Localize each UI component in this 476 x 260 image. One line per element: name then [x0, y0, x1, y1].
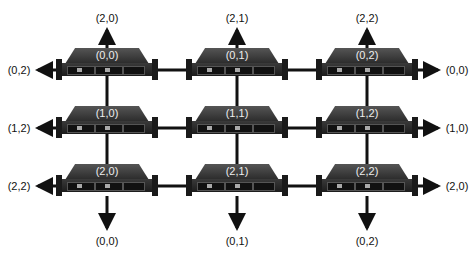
torus-diagram: (2,0)(2,1)(2,2)(0,0)(0,1)(0,2)(0,2)(1,2)… [0, 0, 476, 260]
wrap-label-right: (0,0) [446, 64, 469, 76]
drive-bay-icon [383, 124, 405, 133]
server-node: (2,1) [189, 164, 285, 194]
rack-ear-icon [412, 175, 418, 196]
drive-bay-icon [123, 124, 145, 133]
server-label: (1,0) [59, 107, 155, 119]
rack-ear-icon [316, 59, 322, 80]
server-label: (1,1) [189, 107, 285, 119]
server-node: (0,2) [319, 48, 415, 78]
server-label: (0,2) [319, 49, 415, 61]
rack-ear-icon [56, 175, 62, 196]
server-label: (2,1) [189, 165, 285, 177]
led-icon [365, 126, 370, 130]
wrap-label-top: (2,1) [226, 12, 249, 24]
drive-bay-icon [253, 124, 275, 133]
led-icon [207, 126, 212, 130]
led-icon [105, 184, 110, 188]
wrap-label-bottom: (0,0) [96, 235, 119, 247]
server-label: (0,1) [189, 49, 285, 61]
led-icon [105, 126, 110, 130]
led-icon [365, 184, 370, 188]
rack-ear-icon [282, 59, 288, 80]
wrap-label-left: (2,2) [8, 180, 31, 192]
led-icon [365, 68, 370, 72]
wrap-label-top: (2,0) [96, 12, 119, 24]
rack-ear-icon [282, 175, 288, 196]
drive-bay-icon [383, 182, 405, 191]
led-icon [77, 184, 82, 188]
server-label: (1,2) [319, 107, 415, 119]
led-icon [337, 184, 342, 188]
rack-ear-icon [186, 59, 192, 80]
led-icon [105, 68, 110, 72]
wrap-label-left: (0,2) [8, 64, 31, 76]
led-icon [207, 68, 212, 72]
rack-ear-icon [152, 175, 158, 196]
rack-ear-icon [282, 117, 288, 138]
rack-ear-icon [186, 175, 192, 196]
wrap-label-top: (2,2) [356, 12, 379, 24]
led-icon [235, 68, 240, 72]
drive-bay-icon [253, 66, 275, 75]
rack-ear-icon [316, 117, 322, 138]
drive-bay-icon [383, 66, 405, 75]
server-label: (0,0) [59, 49, 155, 61]
wrap-label-right: (1,0) [446, 122, 469, 134]
drive-bay-icon [123, 182, 145, 191]
rack-ear-icon [412, 117, 418, 138]
server-label: (2,2) [319, 165, 415, 177]
wrap-label-right: (2,0) [446, 180, 469, 192]
wrap-label-bottom: (0,2) [356, 235, 379, 247]
server-node: (1,1) [189, 106, 285, 136]
rack-ear-icon [152, 59, 158, 80]
server-node: (1,2) [319, 106, 415, 136]
server-label: (2,0) [59, 165, 155, 177]
rack-ear-icon [56, 59, 62, 80]
led-icon [235, 126, 240, 130]
server-node: (2,2) [319, 164, 415, 194]
server-node: (0,0) [59, 48, 155, 78]
wrap-label-left: (1,2) [8, 122, 31, 134]
rack-ear-icon [316, 175, 322, 196]
server-node: (1,0) [59, 106, 155, 136]
rack-ear-icon [56, 117, 62, 138]
led-icon [337, 68, 342, 72]
wrap-label-bottom: (0,1) [226, 235, 249, 247]
rack-ear-icon [152, 117, 158, 138]
server-node: (0,1) [189, 48, 285, 78]
drive-bay-icon [123, 66, 145, 75]
led-icon [77, 68, 82, 72]
led-icon [77, 126, 82, 130]
drive-bay-icon [253, 182, 275, 191]
led-icon [337, 126, 342, 130]
rack-ear-icon [412, 59, 418, 80]
led-icon [207, 184, 212, 188]
rack-ear-icon [186, 117, 192, 138]
server-node: (2,0) [59, 164, 155, 194]
led-icon [235, 184, 240, 188]
